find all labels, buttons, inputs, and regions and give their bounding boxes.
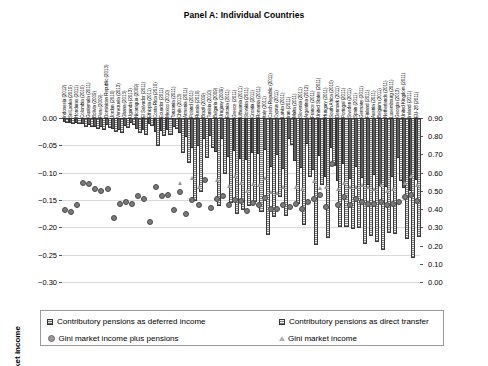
marker-gini-market-income bbox=[233, 174, 237, 178]
marker-gini-market-income bbox=[245, 189, 249, 193]
category-label: Romania (2011) bbox=[256, 87, 261, 118]
marker-gini-market-income bbox=[239, 181, 243, 185]
marker-gini-market-income bbox=[215, 178, 219, 182]
y-axis-tick-left: −0.05 bbox=[38, 141, 57, 150]
marker-gini-market-income bbox=[348, 185, 352, 189]
category-label: Georgia (2013) bbox=[395, 88, 400, 118]
category-label: Bolivia (2009) bbox=[92, 91, 97, 118]
legend-triangle-icon bbox=[279, 336, 285, 341]
category-label: Germany (2011) bbox=[359, 86, 364, 118]
category-label: Venezuela (2013) bbox=[116, 83, 121, 118]
marker-gini-plus-pensions bbox=[414, 198, 420, 204]
category-label: Greece (2011) bbox=[232, 90, 237, 118]
category-label: El Salvador (2011) bbox=[141, 82, 146, 118]
marker-gini-market-income bbox=[227, 184, 231, 188]
category-label: Mexico (2010) bbox=[165, 90, 170, 118]
category-label: Latvia (2011) bbox=[280, 93, 285, 118]
y-axis-tick-mark bbox=[59, 282, 62, 283]
category-label: Uruguay (2009) bbox=[219, 87, 224, 118]
category-label: Bulgaria (2009) bbox=[213, 88, 218, 118]
legend-swatch-icon bbox=[47, 319, 53, 325]
marker-gini-market-income bbox=[324, 185, 328, 189]
marker-gini-market-income bbox=[312, 179, 316, 183]
category-label: Iran (2011) bbox=[286, 97, 291, 118]
category-label: Slovenia (2011) bbox=[298, 87, 303, 118]
plot-area: 0.00−0.05−0.10−0.15−0.20−0.25−0.300.900.… bbox=[62, 118, 420, 282]
legend-swatch-icon bbox=[279, 319, 285, 325]
marker-gini-market-income bbox=[409, 174, 413, 178]
legend-item-deferred: Contributory pensions as deferred income bbox=[47, 317, 279, 326]
category-label: Cyprus (2011) bbox=[274, 90, 279, 118]
category-label: Ireland (2011) bbox=[407, 91, 412, 118]
category-label: Costa Rica (2010) bbox=[153, 82, 158, 118]
y-axis-label-wrapper: Redistributive effect: Market incometo d… bbox=[2, 110, 24, 300]
y-axis-tick-right: 0.50 bbox=[428, 186, 443, 195]
marker-gini-market-income bbox=[403, 181, 407, 185]
y-axis-tick-right: 0.10 bbox=[428, 259, 443, 268]
category-label: Armenia (2011) bbox=[183, 88, 188, 118]
category-label: Malta (2011) bbox=[292, 94, 297, 119]
category-label: Austria (2011) bbox=[371, 91, 376, 118]
marker-gini-market-income bbox=[354, 185, 358, 189]
y-axis-tick-right: 0.20 bbox=[428, 241, 443, 250]
category-label: Ghana (2013) bbox=[122, 91, 127, 118]
y-axis-tick-right: 0.90 bbox=[428, 114, 443, 123]
marker-gini-market-income bbox=[275, 191, 279, 195]
marker-gini-market-income bbox=[269, 190, 273, 194]
category-label: Uganda (2013) bbox=[128, 88, 133, 118]
category-label: Estonia (2011) bbox=[225, 90, 230, 118]
category-label: Indonesia (2012) bbox=[62, 85, 67, 118]
category-label: Luxembourg (2011) bbox=[389, 80, 394, 118]
category-label: Portugal (2011) bbox=[341, 88, 346, 118]
category-label: Chile (2013) bbox=[177, 94, 182, 118]
category-label: Sweden (2011) bbox=[347, 88, 352, 118]
y-axis-tick-right: 0.80 bbox=[428, 132, 443, 141]
legend-circle-icon bbox=[48, 335, 55, 342]
category-label: Peru (2009) bbox=[98, 95, 103, 118]
y-axis-tick-right: 0.60 bbox=[428, 168, 443, 177]
marker-gini-market-income bbox=[197, 185, 201, 189]
category-label: Tunisia (2010) bbox=[207, 90, 212, 118]
legend-item-direct: Contributory pensions as direct transfer bbox=[279, 317, 429, 326]
y-axis-tick-right: 0.00 bbox=[428, 278, 443, 287]
y-axis-tick-right: 0.30 bbox=[428, 223, 443, 232]
y-axis-tick-right: 0.70 bbox=[428, 150, 443, 159]
category-label: Denmark (2011) bbox=[335, 86, 340, 118]
category-label: Czech Republic (2011) bbox=[268, 73, 273, 118]
category-label: Italy (2011) bbox=[262, 96, 267, 118]
y-axis-tick-right: 0.40 bbox=[428, 205, 443, 214]
legend-label-direct: Contributory pensions as direct transfer bbox=[289, 317, 429, 326]
y-axis-tick-left: 0.00 bbox=[42, 114, 57, 123]
marker-gini-market-income bbox=[318, 186, 322, 190]
grid-line bbox=[62, 282, 420, 283]
category-label: Sri Lanka (2010) bbox=[68, 85, 73, 118]
marker-gini-market-income bbox=[372, 187, 376, 191]
legend-item-gini-plus-pensions: Gini market income plus pensions bbox=[47, 334, 279, 343]
y-axis-tick-left: −0.30 bbox=[38, 278, 57, 287]
category-label: Dominican Republic (2013) bbox=[104, 65, 109, 118]
marker-gini-market-income bbox=[281, 185, 285, 189]
category-labels: Indonesia (2012)Sri Lanka (2010)Honduras… bbox=[62, 0, 420, 118]
category-label: Honduras (2011) bbox=[74, 85, 79, 118]
marker-gini-market-income bbox=[391, 187, 395, 191]
category-label: South Africa (2010) bbox=[329, 80, 334, 118]
legend-label-deferred: Contributory pensions as deferred income bbox=[57, 317, 206, 326]
y-axis-label: Redistributive effect: Market incometo d… bbox=[13, 300, 33, 366]
chart-legend: Contributory pensions as deferred income… bbox=[40, 310, 444, 346]
category-label: Colombia (2010) bbox=[80, 85, 85, 118]
marker-gini-market-income bbox=[178, 181, 182, 185]
marker-gini-market-income bbox=[366, 185, 370, 189]
y-axis-tick-left: −0.20 bbox=[38, 223, 57, 232]
bar-direct-transfer bbox=[417, 118, 421, 237]
y-axis-tick-left: −0.15 bbox=[38, 196, 57, 205]
category-label: Poland (2011) bbox=[189, 91, 194, 118]
legend-item-gini-market: Gini market income bbox=[279, 334, 357, 343]
category-label: Hungary (2011) bbox=[323, 88, 328, 118]
marker-gini-market-income bbox=[251, 182, 255, 186]
category-label: Ecuador (2011) bbox=[159, 88, 164, 118]
category-label: United Kingdom (2011) bbox=[401, 73, 406, 118]
marker-gini-market-income bbox=[294, 185, 298, 189]
marker-gini-market-income bbox=[263, 176, 267, 180]
marker-gini-market-income bbox=[190, 176, 194, 180]
category-label: Russia (2010) bbox=[195, 90, 200, 118]
